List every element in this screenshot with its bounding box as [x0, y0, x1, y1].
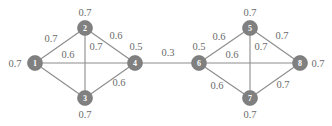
graph-diagram-canvas: 0.70.60.70.60.60.30.60.60.60.70.70.7 123…: [0, 0, 332, 126]
node-weight-label-5: 0.7: [243, 7, 256, 18]
node-label-6: 6: [197, 59, 201, 68]
node-weight-label-1: 0.7: [8, 58, 21, 69]
edge-weight-label-3-4: 0.6: [112, 77, 125, 88]
graph-edge-1-3: [41, 67, 79, 93]
edge-weight-labels-layer: 0.70.60.70.60.60.30.60.60.60.70.70.7: [44, 30, 289, 91]
edge-weight-label-4-6: 0.3: [161, 47, 174, 58]
node-weight-label-4: 0.5: [129, 41, 142, 52]
edge-weight-label-1-2: 0.7: [44, 33, 57, 44]
graph-node-1[interactable]: 1: [28, 56, 43, 71]
edge-weight-label-1-4: 0.6: [61, 49, 74, 60]
node-weight-label-7: 0.7: [243, 109, 256, 120]
edge-weight-label-5-8: 0.7: [275, 30, 288, 41]
graph-node-2[interactable]: 2: [78, 21, 93, 36]
node-label-5: 5: [248, 24, 252, 33]
edge-weight-label-6-8: 0.6: [225, 49, 238, 60]
node-label-8: 8: [298, 59, 302, 68]
node-weight-label-8: 0.7: [311, 58, 324, 69]
graph-node-7[interactable]: 7: [243, 91, 258, 106]
edge-weight-label-2-4: 0.6: [109, 30, 122, 41]
graph-node-3[interactable]: 3: [78, 91, 93, 106]
node-weight-label-6: 0.5: [192, 41, 205, 52]
graph-node-6[interactable]: 6: [192, 56, 207, 71]
edge-weight-label-6-5: 0.6: [212, 31, 225, 42]
graph-node-5[interactable]: 5: [243, 21, 258, 36]
node-label-1: 1: [33, 59, 37, 68]
edge-weight-label-7-8: 0.7: [276, 79, 289, 90]
graph-svg: 0.70.60.70.60.60.30.60.60.60.70.70.7 123…: [0, 0, 332, 126]
edge-weight-label-2-3: 0.7: [89, 41, 102, 52]
node-weight-label-2: 0.7: [78, 7, 91, 18]
node-label-7: 7: [248, 94, 252, 103]
edge-weight-label-5-7: 0.7: [254, 41, 267, 52]
node-label-4: 4: [133, 59, 137, 68]
node-label-2: 2: [83, 24, 87, 33]
graph-node-8[interactable]: 8: [293, 56, 308, 71]
graph-node-4[interactable]: 4: [128, 56, 143, 71]
node-label-3: 3: [83, 94, 87, 103]
node-weight-label-3: 0.7: [78, 109, 91, 120]
edge-weight-label-6-7: 0.6: [210, 80, 223, 91]
